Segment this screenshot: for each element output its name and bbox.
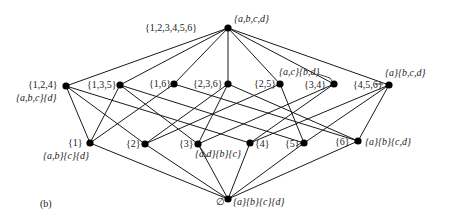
node-n34	[330, 80, 337, 87]
label-n3-partition: {a,d}{b}{c}	[195, 148, 241, 159]
label-n25-set: {2,5}	[254, 78, 276, 89]
edge-n16-n6	[174, 84, 358, 141]
label-n34-set: {3,4}	[304, 79, 326, 90]
edge-n456-n5	[304, 85, 389, 143]
label-n236-set: {2,3,6}	[193, 78, 223, 89]
node-n6	[354, 137, 361, 144]
node-n1	[86, 139, 93, 146]
node-n25	[276, 80, 283, 87]
label-n1-partition: {a,b}{c}{d}	[43, 150, 89, 161]
label-n2-set: {2}	[126, 138, 141, 149]
node-n124	[62, 82, 69, 89]
node-n4	[246, 139, 253, 146]
label-n1-set: {1}	[68, 137, 83, 148]
node-n2	[141, 140, 148, 147]
edge-n25-n2	[145, 84, 280, 144]
label-n456-partition: {a}{b,c,d}	[385, 67, 425, 78]
edge-n456-n6	[358, 85, 389, 141]
label-bottom-set: ∅	[216, 196, 225, 207]
label-n4-set: {4}	[255, 138, 270, 149]
edge-top-n25	[228, 28, 280, 84]
node-top	[224, 24, 231, 31]
label-n124-partition: {a,b,c}{d}	[16, 92, 56, 103]
label-top-set: {1,2,3,4,5,6}	[145, 22, 197, 33]
label-n6-set: {6}	[335, 136, 350, 147]
node-bottom	[224, 195, 231, 202]
panel-label: (b)	[40, 198, 52, 210]
edge-n34-n3	[198, 84, 334, 144]
node-n236	[224, 80, 231, 87]
node-n456	[385, 81, 392, 88]
node-n3	[194, 140, 201, 147]
node-n5	[300, 139, 307, 146]
label-n16-set: {1,6}	[149, 78, 171, 89]
label-bottom-partition: {a}{b}{c}{d}	[233, 196, 284, 207]
node-n16	[170, 80, 177, 87]
label-n124-set: {1,2,4}	[28, 79, 58, 90]
label-n5-set: {5}	[285, 138, 300, 149]
label-n3-set: {3}	[179, 138, 194, 149]
edge-top-n16	[174, 28, 228, 84]
lattice-edges	[66, 28, 389, 199]
node-labels: {1,2,3,4,5,6} {a,b,c,d} {1,2,4} {a,b,c}{…	[16, 13, 425, 210]
label-n34-partition: {a,c}{b,d}	[279, 66, 319, 77]
label-n6-partition: {a}{b}{c,d}	[365, 136, 411, 147]
edge-n135-n1	[90, 85, 120, 143]
node-n135	[116, 81, 123, 88]
label-n456-set: {4,5,6}	[353, 79, 383, 90]
lattice-diagram: {1,2,3,4,5,6} {a,b,c,d} {1,2,4} {a,b,c}{…	[0, 0, 451, 224]
label-top-partition: {a,b,c,d}	[234, 13, 269, 24]
label-n135-set: {1,3,5}	[87, 79, 117, 90]
edge-top-n135	[120, 28, 228, 85]
